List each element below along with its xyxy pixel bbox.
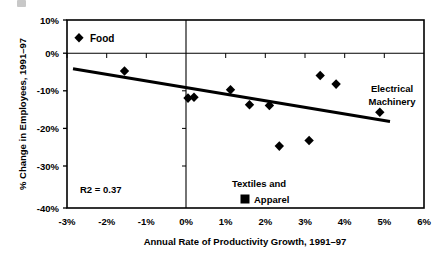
x-tick-label: -3% bbox=[59, 216, 76, 227]
y-axis-title: % Change in Employees, 1991–97 bbox=[17, 38, 28, 190]
legend-label-food: Food bbox=[90, 33, 114, 44]
textiles-label-line1: Textiles and bbox=[232, 178, 286, 189]
y-tick-label: -10% bbox=[37, 85, 60, 96]
electrical-label-line1: Electrical bbox=[371, 83, 413, 94]
scatter-chart: 10% 0% -10% -20% -30% -40% -3% -2% -1% 0… bbox=[0, 0, 446, 263]
x-tick-label: 6% bbox=[417, 216, 431, 227]
cropped-caption-artifact bbox=[17, 0, 26, 7]
x-tick-labels: -3% -2% -1% 0% 1% 2% 3% 4% 5% 6% bbox=[59, 216, 432, 227]
x-tick-label: 3% bbox=[298, 216, 312, 227]
y-tick-label: 10% bbox=[40, 15, 60, 26]
r-squared-annotation: R2 = 0.37 bbox=[80, 184, 121, 195]
electrical-label-line2: Machinery bbox=[369, 96, 417, 107]
x-tick-label: 4% bbox=[338, 216, 352, 227]
x-axis-title: Annual Rate of Productivity Growth, 1991… bbox=[144, 236, 347, 247]
x-tick-label: -1% bbox=[138, 216, 155, 227]
x-tick-label: -2% bbox=[98, 216, 115, 227]
y-tick-labels: 10% 0% -10% -20% -30% -40% bbox=[37, 15, 60, 214]
y-tick-label: -30% bbox=[37, 161, 60, 172]
apparel-label: Apparel bbox=[254, 194, 289, 205]
chart-figure: 10% 0% -10% -20% -30% -40% -3% -2% -1% 0… bbox=[0, 0, 446, 263]
y-tick-label: -20% bbox=[37, 123, 60, 134]
x-tick-label: 2% bbox=[258, 216, 272, 227]
y-tick-label: -40% bbox=[37, 203, 60, 214]
square-marker-icon bbox=[241, 195, 250, 204]
x-tick-label: 1% bbox=[219, 216, 233, 227]
y-tick-label: 0% bbox=[45, 48, 59, 59]
x-tick-label: 5% bbox=[377, 216, 391, 227]
x-tick-label: 0% bbox=[179, 216, 193, 227]
